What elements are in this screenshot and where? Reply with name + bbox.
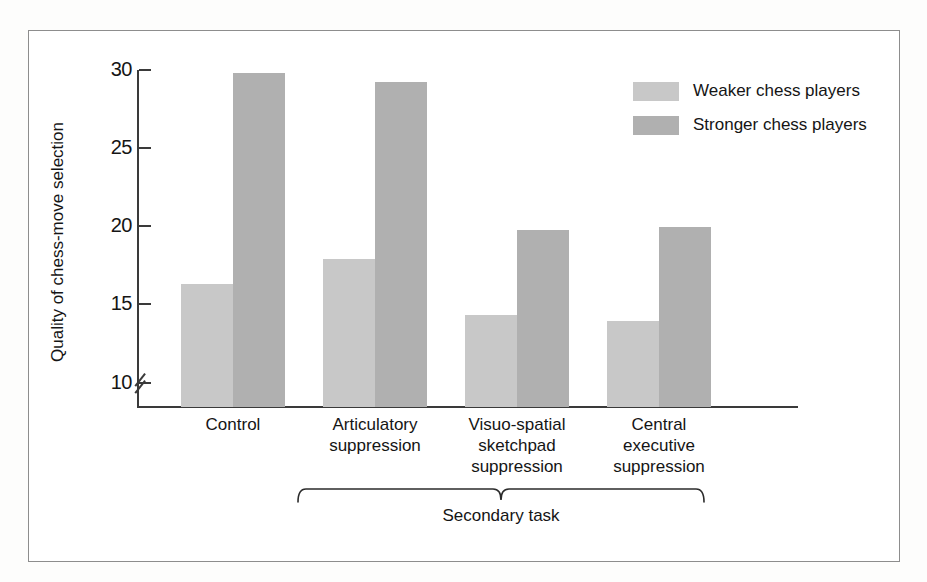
category-label-line: Control <box>163 414 303 435</box>
bar-stronger[interactable] <box>233 73 285 407</box>
secondary-task-brace-icon <box>296 486 706 504</box>
legend-label-stronger: Stronger chess players <box>693 115 867 135</box>
category-label-line: Visuo-spatial <box>447 414 587 435</box>
category-label-line: suppression <box>447 456 587 477</box>
y-tick-label-20: 20 <box>92 215 132 235</box>
bar-weaker[interactable] <box>607 321 659 407</box>
bar-stronger[interactable] <box>517 230 569 407</box>
y-tick-label-15: 15 <box>92 293 132 313</box>
y-tick-label-25: 25 <box>92 137 132 157</box>
legend-swatch-weaker <box>633 82 679 101</box>
category-label-line: executive <box>589 435 729 456</box>
category-label: Centralexecutivesuppression <box>589 414 729 477</box>
bar-weaker[interactable] <box>323 259 375 407</box>
bar-weaker[interactable] <box>465 315 517 407</box>
category-label: Articulatorysuppression <box>305 414 445 456</box>
bar-group <box>323 70 427 407</box>
category-label-line: Articulatory <box>305 414 445 435</box>
secondary-task-label: Secondary task <box>296 506 706 526</box>
legend-label-weaker: Weaker chess players <box>693 81 860 101</box>
y-tick-label-30: 30 <box>92 59 132 79</box>
bar-group <box>465 70 569 407</box>
bar-stronger[interactable] <box>659 227 711 407</box>
category-label-line: suppression <box>305 435 445 456</box>
category-label-line: Central <box>589 414 729 435</box>
legend: Weaker chess players Stronger chess play… <box>633 74 867 142</box>
legend-swatch-stronger <box>633 116 679 135</box>
category-label-line: suppression <box>589 456 729 477</box>
bar-stronger[interactable] <box>375 82 427 407</box>
bar-weaker[interactable] <box>181 284 233 407</box>
category-label: Control <box>163 414 303 435</box>
bar-group <box>181 70 285 407</box>
legend-item-stronger: Stronger chess players <box>633 108 867 142</box>
category-label: Visuo-spatialsketchpadsuppression <box>447 414 587 477</box>
legend-item-weaker: Weaker chess players <box>633 74 867 108</box>
y-tick-label-10: 10 <box>92 372 132 392</box>
figure-canvas: Quality of chess-move selection 30252015… <box>0 0 927 582</box>
y-axis-title: Quality of chess-move selection <box>48 92 68 392</box>
category-label-line: sketchpad <box>447 435 587 456</box>
bar-chart-plot: Quality of chess-move selection 30252015… <box>0 0 927 582</box>
